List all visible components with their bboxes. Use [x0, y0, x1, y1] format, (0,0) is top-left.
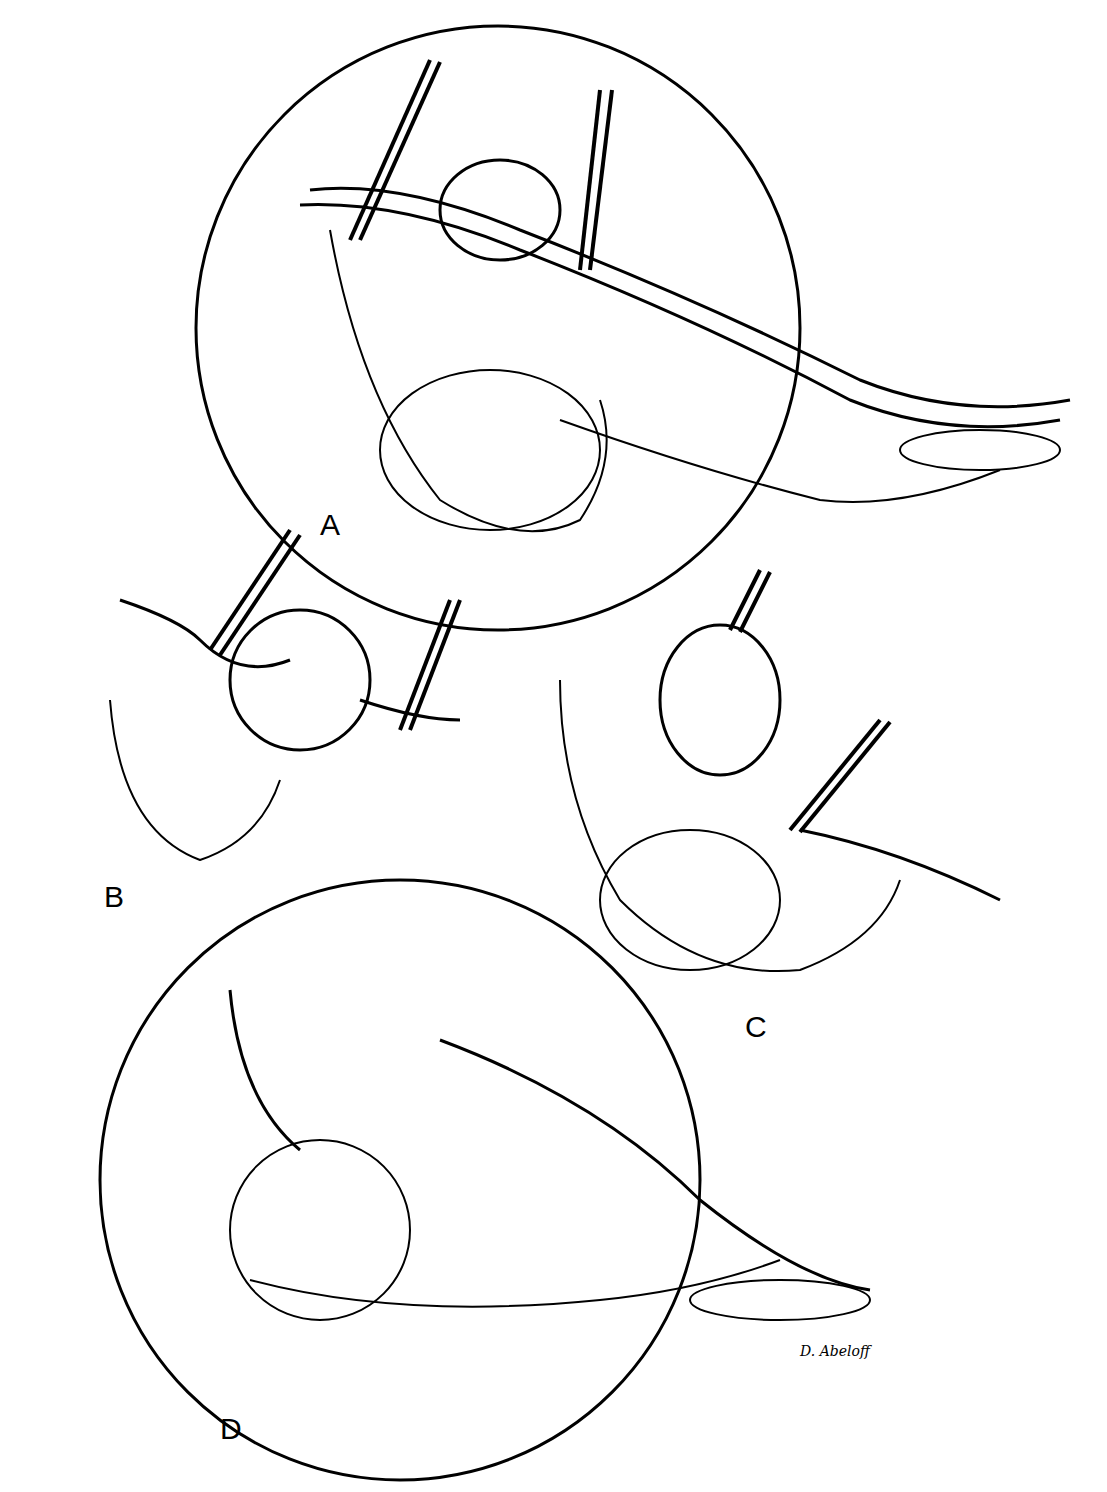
artist-signature: D. Abeloff [800, 1343, 870, 1359]
panel-c-drawing [560, 570, 1000, 971]
panel-label-c: C [745, 1010, 767, 1044]
panel-a-drawing [300, 60, 1070, 531]
panel-b-drawing [110, 530, 460, 860]
surgical-illustration [0, 0, 1107, 1492]
panel-label-a: A [320, 508, 340, 542]
panel-d-inset-circle [100, 880, 700, 1480]
panel-label-b: B [104, 880, 124, 914]
panel-d-drawing [230, 990, 870, 1320]
panel-a-inset-circle [196, 26, 800, 630]
panel-label-d: D [220, 1412, 242, 1446]
